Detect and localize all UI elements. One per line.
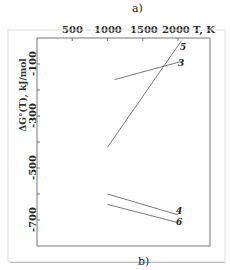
panel-label-bottom: b) (138, 255, 149, 268)
curve-label-3: 3 (178, 58, 184, 68)
series-line-6 (108, 204, 179, 222)
series-line-5 (108, 41, 182, 148)
divider (10, 262, 225, 263)
curve-label-4: 4 (176, 206, 182, 216)
curve-label-5: 5 (180, 42, 186, 52)
plot-area (0, 0, 230, 270)
curve-label-6: 6 (176, 217, 182, 227)
series-line-4 (108, 194, 179, 215)
series-line-3 (115, 61, 182, 79)
